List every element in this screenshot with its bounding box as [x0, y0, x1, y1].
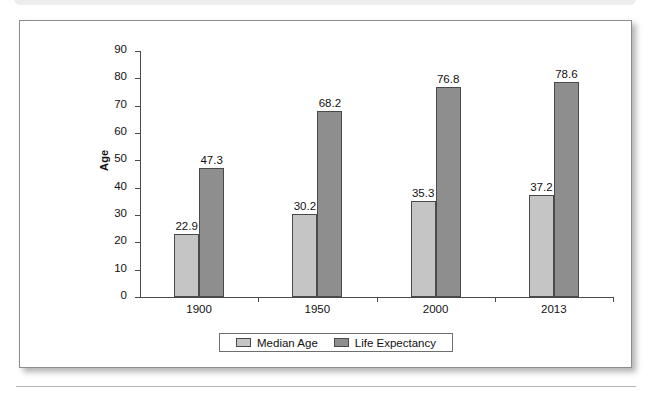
legend-label: Median Age [257, 337, 318, 349]
bar-value-label: 30.2 [294, 200, 316, 212]
bar-group: 35.376.8 [411, 51, 461, 297]
x-axis-category-label-1950: 1950 [272, 303, 362, 315]
bar-life-expectancy-2000[interactable]: 76.8 [436, 87, 461, 297]
page-bottom-rule [16, 386, 636, 387]
y-axis-tick-label: 30 [114, 207, 127, 219]
x-axis-tick [258, 297, 259, 302]
bar-value-label: 22.9 [175, 220, 197, 232]
y-axis-tick: 0 [135, 297, 140, 298]
x-axis-category-label-2000: 2000 [391, 303, 481, 315]
bar-life-expectancy-1900[interactable]: 47.3 [199, 168, 224, 297]
y-axis-tick-label: 60 [114, 125, 127, 137]
x-axis-tick [613, 297, 614, 302]
bar-group: 30.268.2 [292, 51, 342, 297]
legend-swatch-icon [236, 338, 251, 347]
x-axis-category-label-2013: 2013 [509, 303, 599, 315]
y-axis-tick-label: 90 [114, 43, 127, 55]
chart-legend: Median AgeLife Expectancy [219, 333, 453, 352]
legend-item-median-age[interactable]: Median Age [236, 337, 318, 349]
bar-group: 22.947.3 [174, 51, 224, 297]
bar-value-label: 78.6 [555, 68, 577, 80]
y-axis-tick: 80 [135, 78, 140, 79]
y-axis-tick: 40 [135, 188, 140, 189]
bar-median-age-2013[interactable]: 37.2 [529, 195, 554, 297]
bar-median-age-2000[interactable]: 35.3 [411, 201, 436, 297]
legend-label: Life Expectancy [355, 337, 436, 349]
y-axis-tick-label: 20 [114, 234, 127, 246]
y-axis-tick-label: 40 [114, 180, 127, 192]
y-axis-tick-label: 70 [114, 98, 127, 110]
y-axis-tick: 70 [135, 106, 140, 107]
bar-value-label: 47.3 [200, 154, 222, 166]
y-axis-tick: 90 [135, 51, 140, 52]
bar-value-label: 37.2 [530, 181, 552, 193]
x-axis-tick [495, 297, 496, 302]
bar-life-expectancy-1950[interactable]: 68.2 [317, 111, 342, 297]
y-axis-title: Age [98, 150, 110, 171]
y-axis-tick-label: 80 [114, 70, 127, 82]
bar-value-label: 76.8 [437, 73, 459, 85]
x-axis-category-label-1900: 1900 [154, 303, 244, 315]
bar-value-label: 35.3 [412, 187, 434, 199]
legend-swatch-icon [334, 338, 349, 347]
bar-value-label: 68.2 [319, 97, 341, 109]
y-axis-tick: 50 [135, 160, 140, 161]
y-axis-tick: 60 [135, 133, 140, 134]
y-axis-tick: 20 [135, 242, 140, 243]
bar-group: 37.278.6 [529, 51, 579, 297]
bar-life-expectancy-2013[interactable]: 78.6 [554, 82, 579, 297]
chart-plot-area: 0102030405060708090 22.947.330.268.235.3… [140, 51, 613, 297]
x-axis-tick [377, 297, 378, 302]
y-axis-tick: 10 [135, 270, 140, 271]
bar-median-age-1950[interactable]: 30.2 [292, 214, 317, 297]
chart-figure-frame: Age 0102030405060708090 22.947.330.268.2… [19, 20, 632, 368]
y-axis-tick-label: 10 [114, 262, 127, 274]
bar-median-age-1900[interactable]: 22.9 [174, 234, 199, 297]
y-axis-tick-label: 0 [121, 289, 127, 301]
y-axis-tick-label: 50 [114, 152, 127, 164]
page-top-band [14, 0, 636, 5]
y-axis-line [140, 51, 141, 297]
legend-item-life-expectancy[interactable]: Life Expectancy [334, 337, 436, 349]
y-axis-tick: 30 [135, 215, 140, 216]
